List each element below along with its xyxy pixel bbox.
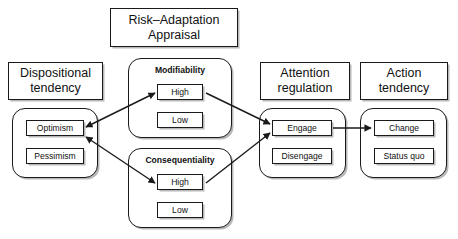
option-engage[interactable]: Engage (272, 120, 332, 136)
group-label-consequentiality: Consequentiality (128, 155, 232, 165)
option-modifiability-high[interactable]: High (157, 84, 203, 100)
diagram-canvas: Risk–Adaptation Appraisal Dispositional … (0, 0, 458, 239)
option-optimism[interactable]: Optimism (26, 120, 84, 136)
header-line-1: Action (379, 66, 430, 81)
option-modifiability-low[interactable]: Low (157, 112, 203, 128)
option-disengage[interactable]: Disengage (272, 148, 332, 164)
header-dispositional-tendency: Dispositional tendency (8, 62, 103, 100)
header-line-2: tendency (379, 81, 430, 96)
group-attention-regulation (259, 108, 346, 178)
group-label-modifiability: Modifiability (128, 65, 232, 75)
title-line-2: Appraisal (128, 28, 219, 43)
title-box-risk-adaptation-appraisal: Risk–Adaptation Appraisal (110, 8, 238, 47)
option-change[interactable]: Change (374, 120, 434, 136)
option-pessimism[interactable]: Pessimism (26, 148, 84, 164)
header-line-1: Attention (278, 66, 333, 81)
group-dispositional-tendency (12, 108, 98, 178)
header-line-1: Dispositional (20, 66, 91, 81)
option-consequentiality-high[interactable]: High (157, 174, 203, 190)
option-consequentiality-low[interactable]: Low (157, 202, 203, 218)
title-line-1: Risk–Adaptation (128, 13, 219, 28)
group-action-tendency (360, 108, 447, 178)
header-line-2: tendency (20, 81, 91, 96)
header-line-2: regulation (278, 81, 333, 96)
option-status-quo[interactable]: Status quo (374, 148, 434, 164)
header-attention-regulation: Attention regulation (260, 62, 350, 100)
header-action-tendency: Action tendency (360, 62, 448, 100)
